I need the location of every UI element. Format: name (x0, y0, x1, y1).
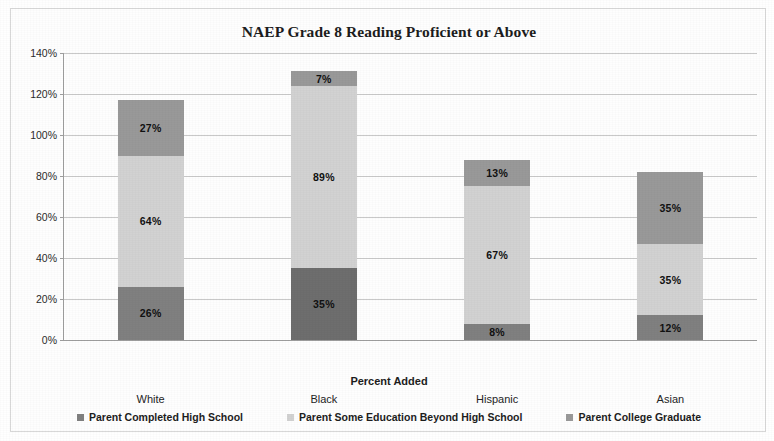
bar-value-label: 8% (489, 326, 505, 338)
bar-segment[interactable]: 35% (637, 244, 703, 316)
y-axis-tick (60, 176, 64, 177)
bar-value-label: 35% (660, 274, 682, 286)
y-axis-tick-label: 100% (30, 129, 57, 141)
bar-value-label: 35% (313, 298, 335, 310)
y-axis-tick-label: 40% (36, 252, 57, 264)
y-axis-tick-label: 120% (30, 88, 57, 100)
legend-item[interactable]: Parent College Graduate (566, 411, 701, 423)
y-axis-tick (60, 94, 64, 95)
y-axis-tick (60, 258, 64, 259)
y-gridline (64, 94, 757, 95)
y-axis-tick-label: 20% (36, 293, 57, 305)
bar-segment[interactable]: 35% (637, 172, 703, 244)
y-axis-tick-label: 0% (42, 334, 57, 346)
bar-segment[interactable]: 13% (464, 160, 530, 187)
bar-segment[interactable]: 64% (118, 156, 184, 287)
bar-segment[interactable]: 27% (118, 100, 184, 155)
x-axis-category-label: Asian (584, 393, 757, 405)
legend-label: Parent Completed High School (89, 411, 243, 423)
bar-segment[interactable]: 35% (291, 268, 357, 340)
x-axis-title: Percent Added (11, 375, 767, 387)
bar-segment[interactable]: 12% (637, 315, 703, 340)
plot-area: 0%20%40%60%80%100%120%140%26%64%27%White… (63, 53, 757, 341)
x-axis-category-label: White (64, 393, 237, 405)
legend-item[interactable]: Parent Some Education Beyond High School (287, 411, 522, 423)
chart-container: NAEP Grade 8 Reading Proficient or Above… (10, 8, 766, 432)
y-axis-tick (60, 53, 64, 54)
bar-value-label: 12% (660, 322, 682, 334)
legend-label: Parent College Graduate (578, 411, 701, 423)
bar-value-label: 89% (313, 171, 335, 183)
legend-swatch-icon (77, 414, 84, 421)
bar-group[interactable]: 26%64%27% (118, 100, 184, 340)
legend-swatch-icon (566, 414, 573, 421)
bar-value-label: 64% (140, 215, 162, 227)
bar-value-label: 7% (316, 73, 332, 85)
y-axis-tick-label: 140% (30, 47, 57, 59)
bar-segment[interactable]: 89% (291, 86, 357, 268)
y-axis-tick (60, 135, 64, 136)
bar-segment[interactable]: 26% (118, 287, 184, 340)
y-axis-tick-label: 80% (36, 170, 57, 182)
bar-group[interactable]: 8%67%13% (464, 160, 530, 340)
bar-value-label: 27% (140, 122, 162, 134)
legend-swatch-icon (287, 414, 294, 421)
bar-segment[interactable]: 8% (464, 324, 530, 340)
bar-value-label: 13% (486, 167, 508, 179)
y-axis-tick (60, 340, 64, 341)
legend-item[interactable]: Parent Completed High School (77, 411, 243, 423)
chart-legend: Parent Completed High SchoolParent Some … (11, 411, 767, 423)
bar-segment[interactable]: 7% (291, 71, 357, 85)
bar-value-label: 67% (486, 249, 508, 261)
bar-value-label: 26% (140, 307, 162, 319)
bar-group[interactable]: 12%35%35% (637, 172, 703, 340)
y-axis-tick (60, 299, 64, 300)
x-axis-category-label: Hispanic (411, 393, 584, 405)
legend-label: Parent Some Education Beyond High School (299, 411, 522, 423)
bar-group[interactable]: 35%89%7% (291, 71, 357, 340)
x-axis-category-label: Black (237, 393, 410, 405)
y-axis-tick-label: 60% (36, 211, 57, 223)
y-axis-tick (60, 217, 64, 218)
y-gridline (64, 53, 757, 54)
bar-segment[interactable]: 67% (464, 186, 530, 323)
bar-value-label: 35% (660, 202, 682, 214)
chart-title: NAEP Grade 8 Reading Proficient or Above (11, 23, 767, 41)
